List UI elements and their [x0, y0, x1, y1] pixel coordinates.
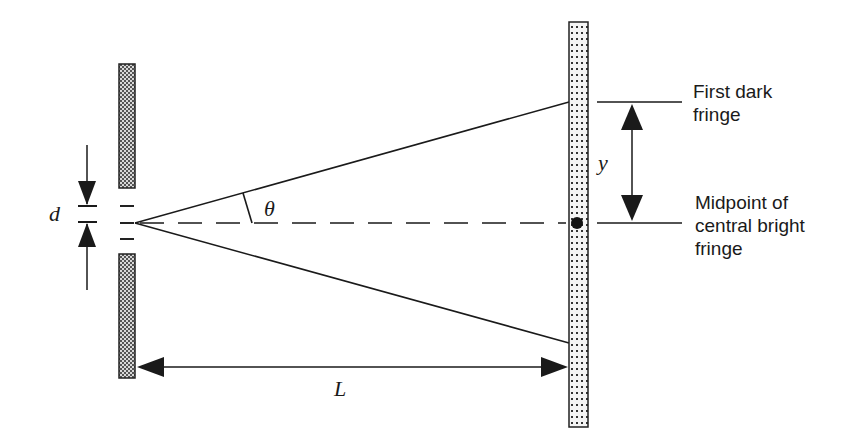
- arrow-left-icon: [137, 357, 164, 377]
- label-L: L: [333, 376, 346, 401]
- svg-text:fringe: fringe: [695, 238, 743, 259]
- distance-dimension: L: [137, 357, 568, 401]
- single-slit-diagram: d θ y L First dark fringe Midpoint of ce…: [0, 0, 867, 437]
- arrow-right-icon: [541, 357, 568, 377]
- svg-text:Midpoint of: Midpoint of: [695, 192, 789, 213]
- slit-width-dimension: d: [49, 145, 97, 290]
- central-dot: [571, 217, 583, 229]
- first-dark-fringe-label: First dark fringe: [693, 81, 773, 125]
- arrow-up-icon: [621, 104, 643, 130]
- label-y: y: [596, 150, 608, 175]
- angle-theta: θ: [243, 193, 275, 223]
- fringe-offset-dimension: y: [596, 104, 643, 221]
- barrier-lower: [119, 254, 135, 378]
- svg-text:fringe: fringe: [693, 104, 741, 125]
- angle-arc: [243, 193, 252, 223]
- label-theta: θ: [264, 196, 275, 221]
- midpoint-label: Midpoint of central bright fringe: [695, 192, 806, 259]
- upper-ray: [135, 102, 569, 223]
- label-d: d: [49, 201, 61, 226]
- slit-barrier: [119, 64, 135, 378]
- arrow-down-icon: [621, 195, 643, 221]
- svg-text:central bright: central bright: [695, 215, 806, 236]
- lower-ray: [135, 223, 569, 343]
- svg-text:First dark: First dark: [693, 81, 773, 102]
- barrier-upper: [119, 64, 135, 188]
- arrow-down-icon: [78, 181, 96, 205]
